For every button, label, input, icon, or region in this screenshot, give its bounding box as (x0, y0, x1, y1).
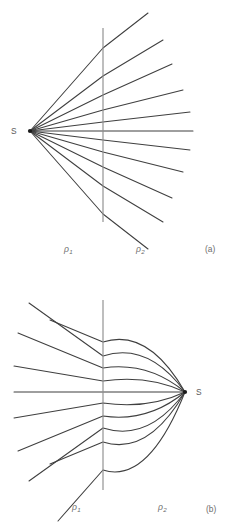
medium-label-subscript: 1 (77, 506, 81, 513)
panel-label-a: (a) (205, 244, 215, 254)
medium-label-subscript: 2 (140, 248, 145, 255)
figure-root: Sρ1ρ2(a)Sρ1ρ2(b) (0, 0, 235, 526)
medium-label-a-1: ρ1 (63, 244, 73, 255)
ray-diagram-canvas: Sρ1ρ2(a)Sρ1ρ2(b) (0, 0, 235, 526)
medium-label-b-2: ρ2 (157, 502, 167, 513)
ray-path-b-9 (50, 392, 185, 464)
medium-label-b-1: ρ1 (71, 502, 81, 513)
ray-path-a-3 (30, 64, 172, 131)
ray-group-a (30, 13, 193, 249)
ray-path-b-1 (50, 320, 185, 392)
ray-path-a-4 (30, 90, 183, 131)
ray-path-a-7 (30, 131, 190, 150)
panel-label-b: (b) (206, 504, 216, 514)
ray-path-a-5 (30, 112, 190, 131)
ray-path-a-11 (30, 131, 148, 249)
ray-path-a-9 (30, 131, 172, 198)
source-label-b: S (196, 387, 202, 397)
ray-path-a-1 (30, 13, 148, 131)
ray-path-b-4 (14, 366, 185, 392)
medium-label-subscript: 2 (162, 506, 167, 513)
panel-a: Sρ1ρ2(a) (11, 13, 215, 255)
ray-path-b-6 (14, 392, 185, 418)
source-point-a (28, 129, 32, 133)
ray-path-a-8 (30, 131, 183, 172)
ray-group-b (14, 303, 185, 521)
source-point-b (183, 390, 187, 394)
source-label-a: S (11, 126, 17, 136)
panel-b: Sρ1ρ2(b) (14, 300, 216, 521)
medium-label-subscript: 1 (69, 248, 73, 255)
